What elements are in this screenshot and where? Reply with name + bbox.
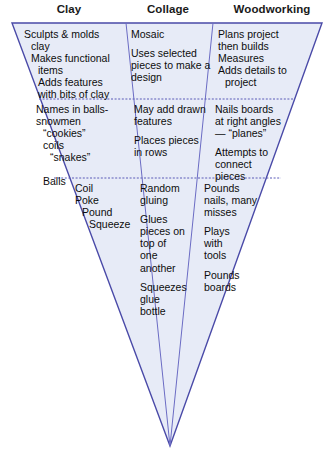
cell-line: Makes functional bbox=[24, 52, 128, 64]
cell-row3-woodworking: Pounds nails, many misses Plays with too… bbox=[204, 182, 270, 293]
cell-paragraph: Pounds boards bbox=[204, 269, 270, 293]
cell-line: Sculpts & molds bbox=[24, 28, 128, 40]
cell-line: then builds bbox=[218, 40, 310, 52]
cell-line: Plans project bbox=[218, 28, 310, 40]
cell-line: Poke bbox=[75, 194, 145, 206]
column-header-collage: Collage bbox=[130, 3, 206, 15]
cell-line: Names in balls- bbox=[36, 103, 132, 115]
column-header-clay: Clay bbox=[28, 3, 110, 15]
column-headers: Clay Collage Woodworking bbox=[0, 0, 327, 22]
cell-line: items bbox=[24, 64, 128, 76]
cell-line: Adds features bbox=[24, 76, 128, 88]
cell-line: with bits of clay bbox=[24, 88, 128, 100]
cell-row3-clay: Coil Poke Pound Squeeze bbox=[75, 182, 145, 230]
cell-paragraph: Pounds nails, many misses bbox=[204, 182, 270, 218]
cell-paragraph: Attempts to connect pieces bbox=[215, 146, 303, 182]
cell-paragraph: May add drawn features bbox=[134, 103, 212, 127]
cell-line: clay bbox=[24, 40, 128, 52]
cell-paragraph: Squeezes glue bottle bbox=[140, 281, 204, 317]
cell-line: “cookies” bbox=[36, 127, 132, 139]
cell-line: Pound bbox=[75, 206, 145, 218]
cell-line: snowmen bbox=[36, 115, 132, 127]
column-header-woodworking: Woodworking bbox=[222, 3, 322, 15]
cell-paragraph: Glues pieces on top of one another bbox=[140, 213, 204, 273]
cell-line: “snakes” bbox=[36, 151, 132, 163]
cell-paragraph: Nails boards at right angles — “planes” bbox=[215, 103, 303, 139]
cell-row3-collage: Random gluing Glues pieces on top of one… bbox=[140, 182, 204, 317]
cell-row2-collage: May add drawn features Places pieces in … bbox=[134, 103, 212, 158]
cell-paragraph: Uses selected pieces to make a design bbox=[131, 47, 211, 83]
cell-line: coils bbox=[36, 139, 132, 151]
cell-line: project bbox=[218, 76, 310, 88]
cell-row1-woodworking: Plans project then builds Measures Adds … bbox=[218, 28, 310, 88]
cell-row1-collage: Mosaic Uses selected pieces to make a de… bbox=[131, 28, 211, 83]
cell-line: Coil bbox=[75, 182, 145, 194]
funnel-diagram: Clay Collage Woodworking Sculpts & molds… bbox=[0, 0, 327, 455]
cell-line: Adds details to bbox=[218, 64, 310, 76]
cell-paragraph: Random gluing bbox=[140, 182, 204, 206]
cell-paragraph: Plays with tools bbox=[204, 225, 270, 261]
cell-row2-woodworking: Nails boards at right angles — “planes” … bbox=[215, 103, 303, 183]
cell-paragraph: Mosaic bbox=[131, 28, 211, 40]
cell-row2-clay: Names in balls- snowmen “cookies” coils … bbox=[36, 103, 132, 188]
cell-paragraph: Places pieces in rows bbox=[134, 134, 212, 158]
cell-line: Measures bbox=[218, 52, 310, 64]
cell-row1-clay: Sculpts & molds clay Makes functional it… bbox=[24, 28, 128, 101]
cell-line: Squeeze bbox=[75, 218, 145, 230]
